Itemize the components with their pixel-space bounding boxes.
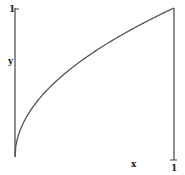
y-max-label: 1	[9, 4, 15, 14]
sqrt-curve	[15, 8, 174, 157]
y-axis-label: y	[7, 56, 14, 66]
x-axis-label: x	[131, 159, 137, 169]
x-max-label: 1	[171, 163, 177, 173]
chart: 1 y x 1	[0, 0, 185, 175]
